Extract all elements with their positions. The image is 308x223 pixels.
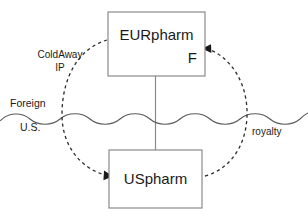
entity-label-uspharm: USpharm	[124, 170, 187, 187]
region-label-foreign: Foreign	[10, 97, 46, 109]
entity-sublabel-eurpharm: F	[188, 49, 197, 66]
entity-label-eurpharm: EURpharm	[119, 26, 193, 43]
ip-license-label-line2: IP	[55, 62, 65, 73]
ip-license-label-line1: ColdAway	[38, 49, 83, 60]
diagram-canvas: EURpharm F USpharm ColdAway IP royalty F…	[0, 0, 308, 223]
entity-box-eurpharm	[108, 12, 205, 76]
ip-royalty-flow-diagram: EURpharm F USpharm ColdAway IP royalty F…	[0, 0, 308, 223]
national-border-wavy-line	[0, 113, 308, 124]
royalty-label: royalty	[252, 126, 281, 137]
ip-license-flow-path	[62, 40, 107, 175]
royalty-flow-path	[205, 49, 247, 176]
region-label-us: U.S.	[20, 121, 40, 133]
